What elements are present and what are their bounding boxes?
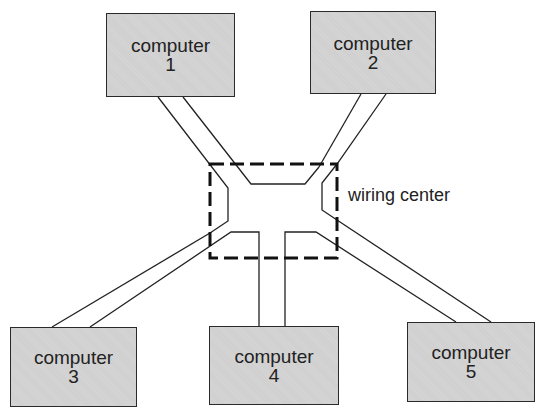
computer-3-label: computer bbox=[34, 348, 113, 367]
computer-4-number: 4 bbox=[269, 366, 280, 385]
computer-2-label: computer bbox=[333, 34, 412, 53]
computer-5-label: computer bbox=[431, 343, 510, 362]
computer-3-number: 3 bbox=[68, 367, 79, 386]
cable-computer-5 bbox=[337, 220, 491, 322]
cable-computer-3 bbox=[52, 232, 259, 327]
computer-1-number: 1 bbox=[165, 55, 176, 74]
cable-computer-4 bbox=[285, 232, 456, 326]
computer-2-node: computer 2 bbox=[310, 11, 436, 94]
computer-4-node: computer 4 bbox=[209, 326, 339, 405]
computer-1-node: computer 1 bbox=[106, 13, 235, 97]
computer-5-number: 5 bbox=[466, 362, 477, 381]
computer-2-number: 2 bbox=[368, 53, 379, 72]
computer-1-label: computer bbox=[131, 36, 210, 55]
wiring-center-label: wiring center bbox=[348, 185, 450, 206]
computer-5-node: computer 5 bbox=[407, 322, 535, 402]
computer-4-label: computer bbox=[234, 347, 313, 366]
wiring-center-box bbox=[210, 164, 337, 258]
computer-3-node: computer 3 bbox=[10, 327, 137, 407]
